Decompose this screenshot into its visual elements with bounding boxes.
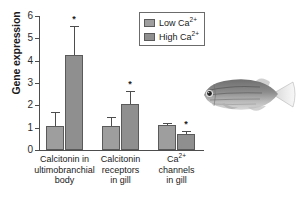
legend: Low Ca2+ High Ca2+	[139, 12, 205, 46]
y-tick-label-6: 6	[19, 11, 33, 21]
significance-marker-group2: *	[125, 80, 135, 89]
x-axis-line	[39, 150, 204, 151]
bar-group3-high	[177, 134, 195, 150]
error-cap-group1-low	[51, 112, 60, 113]
x-category-label-3: Ca2+channelsin gill	[145, 154, 209, 186]
x-category-line1: Calcitonin in	[33, 154, 97, 165]
significance-marker-group1: *	[69, 15, 79, 24]
zebrafish-photo	[198, 62, 298, 128]
error-cap-group2-low	[107, 117, 116, 118]
error-bar-group1-high	[74, 26, 75, 55]
error-cap-group2-high	[126, 91, 135, 92]
x-category-label-1: Calcitonin inultimobranchialbody	[33, 154, 97, 186]
figure-panel: Gene expression 0123456 *** Low Ca2+ Hig…	[0, 0, 304, 198]
error-cap-group1-high	[70, 26, 79, 27]
x-category-line1: Ca2+	[145, 154, 209, 165]
error-cap-group3-high	[182, 131, 191, 132]
y-tick-label-4: 4	[19, 56, 33, 66]
significance-marker-group3: *	[181, 120, 191, 129]
x-category-line2: channels	[145, 165, 209, 176]
bar-group1-high	[65, 55, 83, 150]
legend-label-high: High Ca2+	[159, 33, 199, 42]
error-bar-group2-low	[111, 117, 112, 125]
bar-group2-high	[121, 104, 139, 150]
y-tick-label-5: 5	[19, 33, 33, 43]
x-category-line3: body	[33, 175, 97, 186]
x-category-line2: ultimobranchial	[33, 165, 97, 176]
legend-label-low: Low Ca2+	[159, 19, 197, 28]
y-tick-label-1: 1	[19, 123, 33, 133]
x-category-line2: receptors	[89, 165, 153, 176]
error-bar-group1-low	[55, 112, 56, 126]
error-cap-group3-low	[163, 123, 172, 124]
legend-swatch-high	[144, 33, 155, 41]
y-tick-label-2: 2	[19, 100, 33, 110]
bar-group2-low	[102, 126, 120, 150]
y-tick-label-0: 0	[19, 145, 33, 155]
legend-item-high: High Ca2+	[144, 30, 204, 44]
x-category-line3: in gill	[89, 175, 153, 186]
y-tick-0	[35, 150, 39, 151]
bar-group3-low	[158, 125, 176, 150]
x-category-line1: Calcitonin	[89, 154, 153, 165]
bar-group1-low	[46, 126, 64, 150]
error-bar-group2-high	[130, 91, 131, 104]
x-category-line3: in gill	[145, 175, 209, 186]
x-category-label-2: Calcitoninreceptorsin gill	[89, 154, 153, 186]
legend-swatch-low	[144, 19, 155, 27]
y-tick-label-3: 3	[19, 78, 33, 88]
legend-item-low: Low Ca2+	[144, 16, 204, 30]
